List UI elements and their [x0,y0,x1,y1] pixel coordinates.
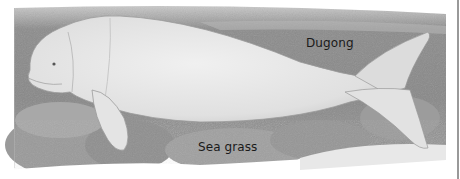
page-edge [457,0,459,179]
seagrass-label: Sea grass [198,140,257,154]
eye [52,62,55,65]
dugong-label: Dugong [306,36,354,50]
